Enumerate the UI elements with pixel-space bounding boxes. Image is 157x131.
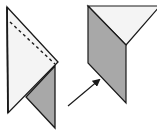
origami-diagram bbox=[0, 0, 157, 131]
figure-before-fold bbox=[7, 7, 58, 128]
left-edge-thick bbox=[7, 7, 8, 113]
figure-after-fold bbox=[88, 6, 157, 103]
direction-arrow-icon bbox=[68, 80, 99, 106]
